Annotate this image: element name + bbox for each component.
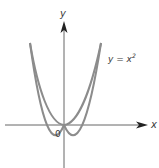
origin-label: 0	[55, 129, 61, 139]
y-axis-label: y	[59, 8, 67, 19]
x-axis-label: x	[150, 119, 157, 130]
curve-label: y = x2	[107, 52, 136, 64]
parabola-graph: y x 0 y = x2	[0, 0, 159, 168]
curve-label-exponent: 2	[132, 52, 136, 59]
